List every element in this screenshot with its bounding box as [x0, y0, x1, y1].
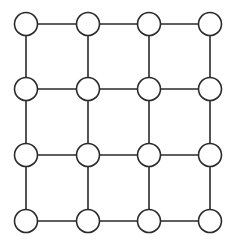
graph-node-3-2	[138, 210, 161, 233]
node-layer	[15, 13, 222, 233]
graph-node-0-1	[77, 13, 100, 36]
graph-node-1-2	[138, 78, 161, 101]
graph-node-2-2	[138, 144, 161, 167]
graph-node-1-1	[77, 78, 100, 101]
grid-graph-diagram	[0, 0, 233, 248]
graph-node-2-3	[199, 144, 222, 167]
graph-node-0-3	[199, 13, 222, 36]
graph-node-0-2	[138, 13, 161, 36]
edge-layer	[26, 24, 210, 221]
graph-node-3-3	[199, 210, 222, 233]
graph-node-2-0	[15, 144, 38, 167]
graph-node-1-0	[15, 78, 38, 101]
graph-node-3-0	[15, 210, 38, 233]
graph-node-0-0	[15, 13, 38, 36]
graph-node-2-1	[77, 144, 100, 167]
graph-node-3-1	[77, 210, 100, 233]
graph-node-1-3	[199, 78, 222, 101]
